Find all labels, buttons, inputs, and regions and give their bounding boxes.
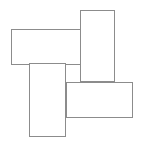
rectangle-top-right-vertical xyxy=(80,10,115,82)
rectangle-bottom-right-horizontal xyxy=(66,82,133,118)
rectangle-bottom-left-vertical xyxy=(29,63,66,137)
pinwheel-figure-canvas xyxy=(0,0,159,150)
rectangle-top-left-horizontal xyxy=(11,29,81,65)
